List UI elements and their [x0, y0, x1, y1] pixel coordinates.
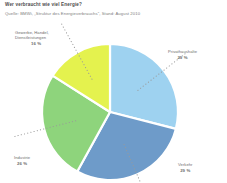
pie-label-industrie-name: Industrie — [14, 155, 30, 160]
pie-label-industrie-value: 26 % — [14, 161, 30, 166]
pie-label-gewerbe-name-line2: Dienstleistungen — [15, 35, 57, 40]
pie-label-privathaushalte-value: 29 % — [168, 55, 197, 60]
pie-label-gewerbe-value: 16 % — [15, 41, 57, 46]
pie-label-industrie: Industrie 26 % — [14, 155, 30, 166]
pie-label-verkehr-value: 29 % — [178, 168, 192, 173]
pie-label-verkehr: Verkehr 29 % — [178, 162, 192, 173]
pie-slices — [42, 44, 178, 180]
pie-label-verkehr-name: Verkehr — [178, 162, 192, 167]
chart-figure: Wer verbraucht wie viel Energie? Quelle:… — [0, 0, 227, 183]
pie-chart — [0, 0, 227, 183]
pie-label-privathaushalte: Privathaushalte 29 % — [168, 49, 197, 60]
pie-label-gewerbe: Gewerbe, Handel, Dienstleistungen 16 % — [15, 30, 57, 46]
pie-label-privathaushalte-name: Privathaushalte — [168, 49, 197, 54]
